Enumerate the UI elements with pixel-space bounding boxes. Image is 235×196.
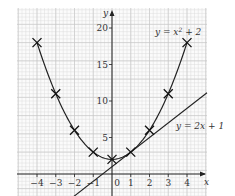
x-axis-label: x <box>204 177 209 187</box>
y-axis-label: y <box>102 8 109 18</box>
x-tick-label: 2 <box>147 178 153 188</box>
parabola-equation-label: y = x2 + 2 <box>154 26 202 37</box>
x-tick-label: −4 <box>30 178 44 188</box>
x-tick-label: 3 <box>165 178 171 188</box>
function-graph: −4−3−2−1012345101520 x y y = x2 + 2 y = … <box>0 0 235 196</box>
x-tick-label: −2 <box>68 178 81 188</box>
x-tick-label: 0 <box>114 178 120 188</box>
line-equation-label: y = 2x + 1 <box>175 121 224 131</box>
y-tick-label: 5 <box>102 133 108 143</box>
x-tick-label: −3 <box>49 178 63 188</box>
x-tick-label: −1 <box>87 178 100 188</box>
x-tick-label: 1 <box>128 178 134 188</box>
y-tick-label: 20 <box>97 23 109 33</box>
x-tick-label: 4 <box>184 178 190 188</box>
y-tick-label: 10 <box>97 96 109 106</box>
y-tick-label: 15 <box>97 60 109 70</box>
